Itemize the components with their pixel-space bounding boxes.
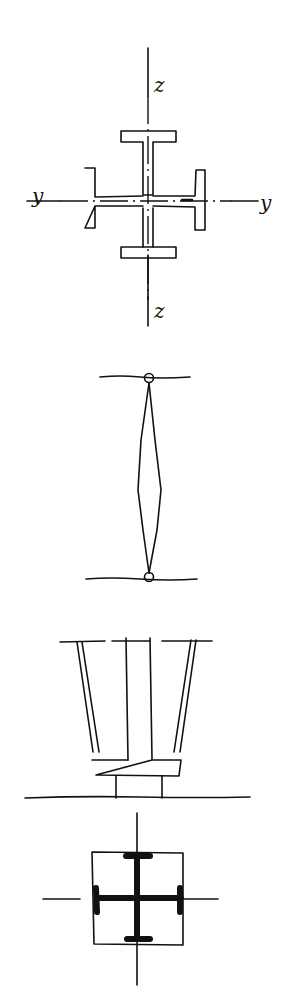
cross-section-figure: z z y y — [27, 48, 272, 326]
axis-label-z-top: z — [153, 73, 165, 97]
column-base-figure — [25, 638, 250, 798]
axis-label-y-right: y — [259, 191, 272, 215]
pinned-column-figure — [86, 374, 197, 582]
axis-label-z-bottom: z — [153, 299, 165, 323]
sketch-canvas: z z y y — [0, 0, 284, 995]
axis-label-y-left: y — [31, 184, 44, 208]
encased-section-figure — [43, 813, 218, 985]
